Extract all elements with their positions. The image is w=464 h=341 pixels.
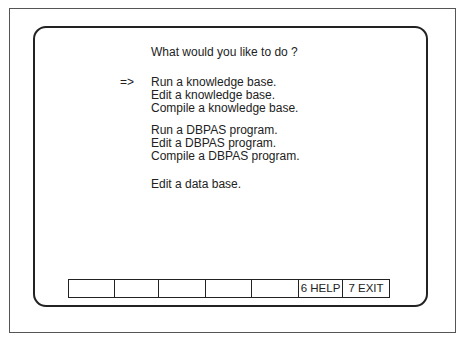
- selection-cursor: =>: [120, 76, 134, 89]
- help-key[interactable]: 6 HELP: [298, 279, 343, 298]
- terminal-screen: [33, 26, 428, 307]
- prompt-title: What would you like to do ?: [151, 46, 298, 59]
- function-key-3[interactable]: [158, 279, 206, 298]
- function-key-5[interactable]: [251, 279, 299, 298]
- function-key-bar: 6 HELP 7 EXIT: [68, 279, 390, 298]
- function-key-2[interactable]: [114, 279, 159, 298]
- menu-item-compile-dbpas-program[interactable]: Compile a DBPAS program.: [151, 150, 300, 163]
- menu-item-edit-data-base[interactable]: Edit a data base.: [151, 178, 241, 191]
- function-key-1[interactable]: [68, 279, 115, 298]
- exit-key[interactable]: 7 EXIT: [342, 279, 390, 298]
- menu-item-compile-knowledge-base[interactable]: Compile a knowledge base.: [151, 102, 298, 115]
- function-key-4[interactable]: [205, 279, 252, 298]
